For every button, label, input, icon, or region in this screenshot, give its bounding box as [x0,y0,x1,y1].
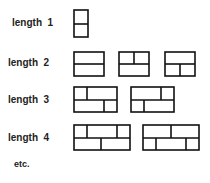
tiling-1a [74,10,88,37]
tiling-2c [165,52,195,76]
tiling-2a [74,52,104,76]
tiling-4b [143,125,199,150]
tiling-3b [131,87,174,112]
tiling-2b [119,52,149,76]
tilings [0,0,210,183]
tiling-4a [74,125,130,150]
tiling-3a [74,87,117,112]
